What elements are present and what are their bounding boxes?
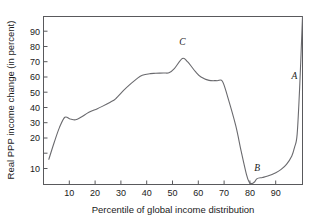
y-tick-label: 40 (30, 103, 40, 113)
income-change-curve (49, 17, 303, 184)
y-tick-label: 10 (30, 164, 40, 174)
x-tick-label: 70 (219, 188, 229, 198)
x-tick-label: 50 (167, 188, 177, 198)
x-axis-title: Percentile of global income distribution (92, 204, 255, 215)
y-tick-label: 70 (30, 57, 40, 67)
x-tick-label: 90 (271, 188, 281, 198)
y-tick-label: 20 (30, 133, 40, 143)
x-axis-tick-labels: 10 20 30 40 50 60 70 80 90 (64, 188, 280, 198)
x-tick-label: 60 (193, 188, 203, 198)
x-tick-label: 10 (64, 188, 74, 198)
plot-frame (44, 17, 303, 185)
x-axis-ticks (69, 181, 275, 185)
annotation-label-a: A (291, 71, 298, 81)
y-tick-label: 50 (30, 88, 40, 98)
x-tick-label: 80 (245, 188, 255, 198)
x-tick-label: 20 (90, 188, 100, 198)
y-tick-label: 80 (30, 42, 40, 52)
annotation-label-c: C (179, 37, 186, 47)
y-tick-label: 60 (30, 72, 40, 82)
y-axis-ticks (44, 31, 48, 168)
annotation-label-b: B (254, 163, 260, 173)
y-tick-label: 30 (30, 118, 40, 128)
x-tick-label: 40 (142, 188, 152, 198)
y-axis-tick-labels: 90 80 70 60 50 40 30 20 10 (30, 27, 40, 174)
y-tick-label: 90 (30, 27, 40, 37)
chart-container: 90 80 70 60 50 40 30 20 10 10 20 30 (0, 0, 313, 221)
y-axis-title: Real PPP income change (in percent) (5, 21, 16, 180)
elephant-curve-chart: 90 80 70 60 50 40 30 20 10 10 20 30 (0, 0, 313, 221)
x-tick-label: 30 (116, 188, 126, 198)
